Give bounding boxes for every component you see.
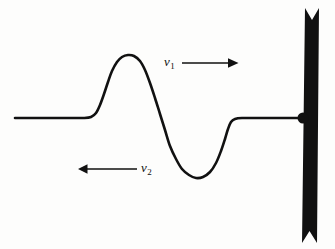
figure-canvas bbox=[0, 0, 335, 249]
figure-background bbox=[0, 0, 335, 249]
velocity-label-v1-subscript: 1 bbox=[170, 61, 175, 71]
velocity-label-v2-symbol: v bbox=[141, 160, 147, 175]
wave-pulse-figure: v1 v2 bbox=[0, 0, 335, 249]
velocity-label-v2-subscript: 2 bbox=[147, 167, 152, 177]
velocity-label-v2: v2 bbox=[141, 161, 151, 174]
velocity-label-v1: v1 bbox=[164, 55, 174, 68]
velocity-label-v1-symbol: v bbox=[164, 54, 170, 69]
